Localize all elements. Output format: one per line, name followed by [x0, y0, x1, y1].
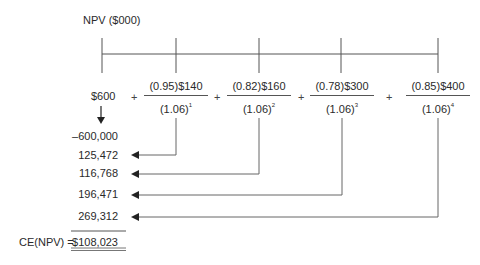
chart-title: NPV ($000): [83, 14, 140, 26]
fraction-term-1: (0.95)$140 (1.06)1: [136, 80, 216, 116]
exponent: 1: [189, 102, 192, 108]
exponent: 3: [355, 102, 358, 108]
result-label: CE(NPV) =: [19, 236, 74, 248]
value-year-1: 125,472: [78, 149, 118, 161]
fraction-term-3: (0.78)$300 (1.06)3: [302, 80, 382, 116]
initial-investment: $600: [91, 90, 115, 102]
value-initial: –600,000: [72, 130, 118, 142]
arrow-left-icon: [131, 170, 139, 178]
arrow-left-icon: [131, 151, 139, 159]
numerator: (0.82)$160: [219, 80, 299, 93]
arrow-left-icon: [131, 213, 139, 221]
fraction-bar: [144, 95, 208, 96]
result-value: $108,023: [72, 236, 118, 248]
numerator: (0.95)$140: [136, 80, 216, 93]
fraction-bar: [227, 95, 291, 96]
plus-sign: +: [386, 91, 392, 103]
connector-3: [138, 118, 342, 195]
fraction-bar: [406, 95, 470, 96]
connector-4: [138, 118, 438, 217]
connector-1: [138, 118, 176, 155]
exponent: 2: [272, 102, 275, 108]
value-year-4: 269,312: [78, 210, 118, 222]
denominator: (1.06): [160, 103, 189, 115]
value-year-3: 196,471: [78, 188, 118, 200]
denominator: (1.06): [243, 103, 272, 115]
exponent: 4: [451, 102, 454, 108]
connector-2: [138, 118, 259, 174]
fraction-term-4: (0.85)$400 (1.06)4: [398, 80, 478, 116]
value-year-2: 116,768: [79, 167, 118, 179]
numerator: (0.78)$300: [302, 80, 382, 93]
fraction-term-2: (0.82)$160 (1.06)2: [219, 80, 299, 116]
denominator: (1.06): [422, 103, 451, 115]
numerator: (0.85)$400: [398, 80, 478, 93]
fraction-bar: [310, 95, 374, 96]
arrow-left-icon: [131, 191, 139, 199]
denominator: (1.06): [326, 103, 355, 115]
